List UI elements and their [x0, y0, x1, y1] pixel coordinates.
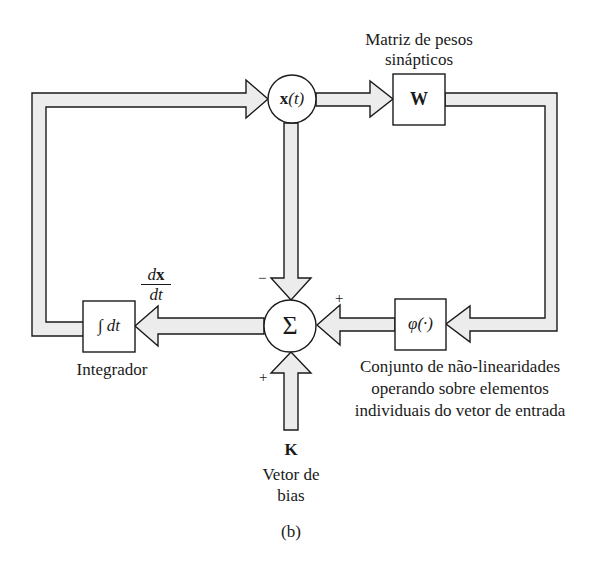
state-symbol: x(t) — [268, 89, 316, 109]
state-symbol-arg: (t) — [288, 89, 304, 108]
derivative-numerator: dx — [141, 265, 171, 285]
integrator-label: Integrador — [52, 360, 172, 380]
plus-sign-nonlinearity: + — [335, 290, 343, 306]
weights-label-line1: Matriz de pesos — [344, 30, 494, 50]
nonlinearity-to-summer-arrow — [317, 305, 395, 345]
bias-symbol: K — [271, 440, 311, 460]
summer-to-integrator-arrow — [135, 306, 264, 346]
weights-label-line2: sinápticos — [344, 50, 494, 70]
state-symbol-x: x — [280, 89, 289, 108]
state-to-summer-arrow — [271, 123, 311, 300]
weights-to-nonlinearity-arrow — [445, 93, 557, 342]
weights-symbol: W — [393, 89, 445, 109]
bias-label-line2: bias — [241, 486, 341, 506]
state-to-weights-arrow — [316, 81, 393, 117]
derivative-label: dx dt — [141, 265, 171, 304]
integrator-symbol: ∫ dt — [83, 316, 135, 336]
nonlinearity-label-line3: individuais do vetor de entrada — [315, 401, 605, 421]
bias-label-line1: Vetor de — [241, 465, 341, 485]
derivative-d: d — [148, 265, 157, 284]
nonlinearity-symbol: φ(·) — [395, 314, 446, 334]
minus-sign: − — [258, 270, 266, 286]
derivative-x: x — [156, 265, 165, 284]
nonlinearity-label-line1: Conjunto de não-linearidades — [325, 357, 595, 377]
derivative-denominator: dt — [141, 285, 171, 304]
plus-sign-bias: + — [259, 369, 267, 385]
bias-to-summer-arrow — [271, 352, 311, 430]
figure-caption: (b) — [261, 522, 321, 542]
nonlinearity-label-line2: operando sobre elementos — [325, 379, 595, 399]
summer-symbol: Σ — [264, 312, 316, 340]
